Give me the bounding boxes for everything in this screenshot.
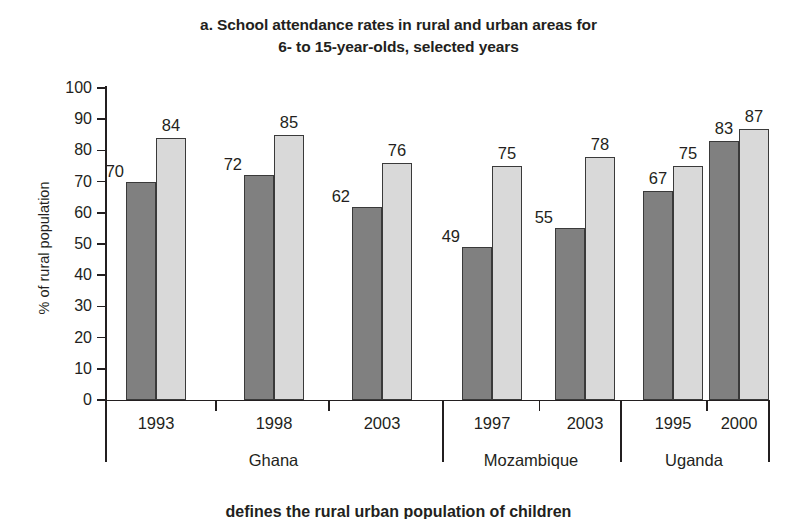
y-axis-tick-label-wrap: 40 [48,267,92,283]
y-axis-tick [97,150,105,152]
y-axis-line [105,86,107,401]
y-axis-tick [97,274,105,276]
x-axis-year-tick [328,400,330,411]
y-axis-tick-label: 40 [52,267,92,283]
bar-value-label-urban: 85 [268,114,310,131]
y-axis-tick-label-wrap: 70 [48,174,92,190]
bar-value-label-urban: 84 [150,117,192,134]
bottom-caption: defines the rural urban population of ch… [0,503,797,519]
y-axis-tick-label: 70 [52,174,92,190]
y-axis-tick-label-wrap: 80 [48,142,92,158]
bar-value-label-rural: 70 [92,163,124,180]
y-axis-tick-label: 20 [52,330,92,346]
y-axis-tick-label-wrap: 20 [48,330,92,346]
x-axis-year-label: 2003 [342,414,422,432]
bar-urban [156,138,186,400]
x-axis-year-tick [706,400,708,411]
bar-rural [555,228,585,400]
x-axis-year-tick [539,400,541,411]
y-axis-tick [97,368,105,370]
bar-urban [274,135,304,400]
bar-value-label-rural: 67 [637,170,679,187]
y-axis-tick [97,181,105,183]
bar-rural [126,182,156,400]
y-axis-tick [97,87,105,89]
bar-rural [709,141,739,400]
bar-value-label-urban: 76 [376,142,418,159]
y-axis-tick-label: 10 [52,361,92,377]
bar-urban [492,166,522,400]
bar-value-label-rural: 62 [318,188,350,205]
bar-rural [643,191,673,400]
y-axis-tick-label: 0 [52,392,92,408]
y-axis-tick [97,243,105,245]
y-axis-tick-label: 90 [52,111,92,127]
x-axis-country-label: Uganda [560,451,797,469]
bar-urban [739,129,769,400]
bar-chart: % of rural population 100908070605040302… [0,0,797,519]
x-axis-year-tick [215,400,217,411]
y-axis-tick-label: 50 [52,236,92,252]
y-axis-tick-label-wrap: 50 [48,236,92,252]
bar-rural [462,247,492,400]
y-axis-tick-label-wrap: 100 [48,80,92,96]
y-axis-tick-label: 80 [52,142,92,158]
y-axis-tick-label-wrap: 30 [48,298,92,314]
x-axis-year-label: 1997 [452,414,532,432]
bar-rural [244,175,274,400]
y-axis-tick [97,306,105,308]
y-axis-tick-label-wrap: 10 [48,361,92,377]
y-axis-tick-label: 30 [52,298,92,314]
y-axis-tick-label: 60 [52,205,92,221]
bar-value-label-urban: 87 [733,108,775,125]
x-axis-year-label: 2003 [545,414,625,432]
bar-urban [585,157,615,400]
y-axis-tick-label-wrap: 0 [48,392,92,408]
x-axis-year-label: 1998 [234,414,314,432]
y-axis-tick [97,212,105,214]
bar-value-label-rural: 49 [428,228,460,245]
bar-urban [382,163,412,400]
y-axis-tick-label-wrap: 90 [48,111,92,127]
bar-value-label-urban: 75 [667,145,709,162]
bar-value-label-urban: 75 [486,145,528,162]
bar-rural [352,207,382,400]
bar-value-label-rural: 55 [521,209,553,226]
bar-urban [673,166,703,400]
bar-value-label-urban: 78 [579,136,621,153]
x-axis-year-label: 2000 [699,414,779,432]
x-axis-year-label: 1993 [116,414,196,432]
bar-value-label-rural: 72 [210,156,242,173]
y-axis-tick-label: 100 [52,80,92,96]
y-axis-tick [97,118,105,120]
y-axis-tick [97,337,105,339]
y-axis-tick [97,399,105,401]
y-axis-tick-label-wrap: 60 [48,205,92,221]
